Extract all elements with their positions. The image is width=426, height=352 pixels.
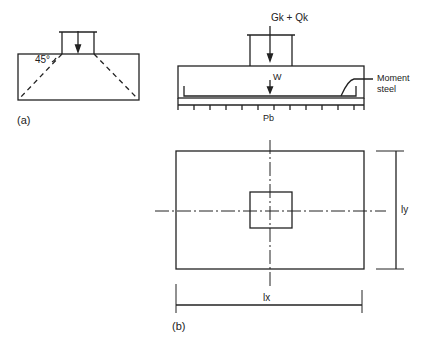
self-weight-label: W [273, 72, 282, 82]
lx-label: lx [263, 292, 270, 303]
footing-diagram [0, 0, 426, 352]
figure-a-caption: (a) [17, 114, 30, 126]
figure-a-footing-section [18, 31, 139, 100]
figure-b-footing-section [178, 26, 373, 110]
figure-b-footing-plan [155, 140, 404, 313]
figure-b-caption: (b) [172, 320, 185, 332]
load-label: Gk + Qk [271, 12, 308, 23]
angle-label: 45° [35, 54, 50, 65]
ly-label: ly [401, 204, 408, 215]
moment-steel-label-line2: steel [377, 84, 410, 95]
bearing-pressure-arrows [178, 98, 364, 110]
moment-steel-label-line1: Moment [377, 73, 410, 84]
pressure-label: Pb [263, 113, 274, 123]
moment-steel-label: Moment steel [377, 73, 410, 95]
